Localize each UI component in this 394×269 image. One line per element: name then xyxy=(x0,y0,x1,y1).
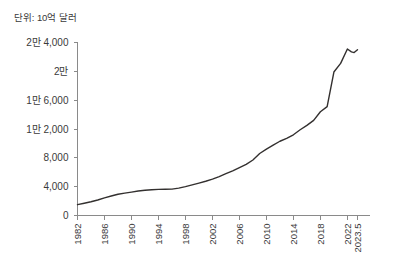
y-tick-label: 1만 6,000 xyxy=(26,95,69,106)
y-axis-ticks xyxy=(74,43,78,216)
x-tick-label: 2006 xyxy=(234,224,245,245)
y-axis-labels: 2만 4,0002만1만 6,0001만 2,0008,0004,0000 xyxy=(26,37,69,221)
x-tick-label: 1990 xyxy=(126,224,137,245)
y-tick-label: 0 xyxy=(63,210,69,221)
chart-page: 단위: 10억 달러 2만 4,0002만1만 6,0001만 2,0008,0… xyxy=(0,0,394,269)
y-tick-label: 8,000 xyxy=(43,152,68,163)
x-axis-labels: 1982198619901994199820022006201020142018… xyxy=(72,224,363,253)
x-tick-label: 1998 xyxy=(180,224,191,245)
x-tick-label: 1986 xyxy=(99,224,110,245)
y-tick-label: 1만 2,000 xyxy=(26,124,69,135)
y-tick-label: 2만 xyxy=(54,66,69,77)
y-tick-label: 2만 4,000 xyxy=(26,37,69,48)
line-chart-plot: 2만 4,0002만1만 6,0001만 2,0008,0004,0000 19… xyxy=(0,0,394,269)
x-tick-label: 2010 xyxy=(261,224,272,245)
x-tick-label: 1982 xyxy=(72,224,83,245)
x-tick-label: 1994 xyxy=(153,224,164,245)
x-tick-label: 2014 xyxy=(288,224,299,245)
x-tick-label: 2018 xyxy=(315,224,326,245)
debt-series-line xyxy=(78,49,358,205)
x-tick-label: 2023.5 xyxy=(352,224,363,253)
x-axis-ticks xyxy=(78,216,358,220)
x-tick-label: 2002 xyxy=(207,224,218,245)
y-tick-label: 4,000 xyxy=(43,181,68,192)
